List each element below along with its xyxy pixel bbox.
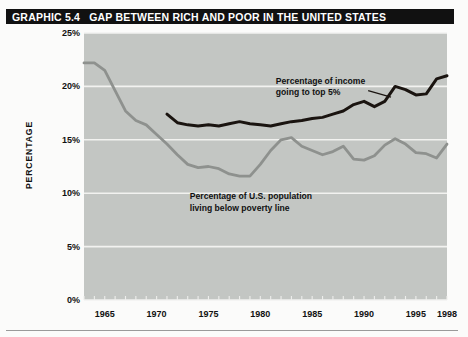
x-tick-label: 1995 [406, 309, 426, 319]
annotation-poverty-line1: Percentage of U.S. population [190, 191, 312, 203]
x-tick-label: 1970 [147, 309, 167, 319]
x-tick-label: 1998 [437, 309, 457, 319]
chart-figure: GRAPHIC 5.4 GAP BETWEEN RICH AND POOR IN… [0, 0, 468, 337]
bottom-divider [6, 330, 458, 331]
annotation-top5-line2: going to top 5% [276, 87, 365, 99]
annotation-top5-line1: Percentage of income [276, 76, 365, 88]
x-tick-label: 1990 [354, 309, 374, 319]
annotation-poverty-line: Percentage of U.S. population living bel… [190, 191, 312, 214]
annotation-poverty-line2: living below poverty line [190, 203, 312, 215]
x-tick-label: 1975 [198, 309, 218, 319]
x-axis-ticks: 19651970197519801985199019951998 [0, 0, 468, 337]
x-tick-label: 1980 [250, 309, 270, 319]
annotation-top5-income: Percentage of income going to top 5% [276, 76, 365, 99]
x-tick-label: 1965 [95, 309, 115, 319]
x-tick-label: 1985 [302, 309, 322, 319]
